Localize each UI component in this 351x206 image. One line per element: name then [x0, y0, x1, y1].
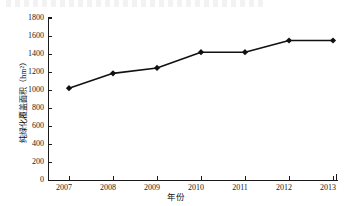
data-point-2007: [66, 85, 72, 91]
chart-page: 1800 1600 1400 1200 1000 800 600 400 200…: [0, 0, 351, 206]
data-point-2011: [242, 49, 248, 55]
series-layer: [0, 0, 351, 206]
series-line: [69, 41, 333, 89]
data-point-2008: [110, 70, 116, 76]
data-point-2009: [154, 65, 160, 71]
data-point-2010: [198, 49, 204, 55]
data-point-2013: [330, 37, 336, 43]
series-markers: [66, 37, 336, 91]
data-point-2012: [286, 37, 292, 43]
